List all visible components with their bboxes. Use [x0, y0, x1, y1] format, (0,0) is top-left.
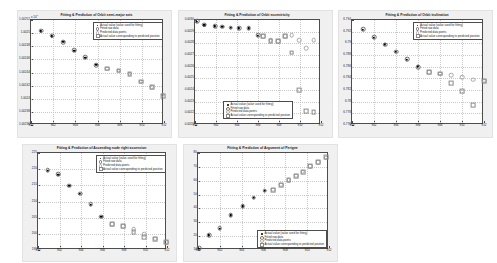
- legend-label: Actual value corresponding to predicted …: [420, 35, 480, 38]
- legend-label: Actual value corresponding to predicted …: [265, 243, 325, 246]
- data-point: [237, 26, 242, 31]
- chart-title-4: Fitting & Prediction of Ascending node r…: [38, 146, 165, 151]
- plot-area-2: Fitting & Prediction of Orbit eccentrici…: [194, 19, 320, 124]
- x-tick-label: 904: [239, 249, 244, 252]
- data-point: [311, 110, 316, 115]
- x-tick-mark: [167, 246, 168, 248]
- data-point: [471, 103, 476, 108]
- data-point: [297, 38, 302, 43]
- data-point: [311, 38, 316, 43]
- chart-legend-3[interactable]: Actual value (value used for fitting)Fit…: [413, 22, 483, 40]
- x-tick-label: 904: [78, 249, 83, 252]
- legend-row: Actual value corresponding to predicted …: [98, 167, 163, 171]
- data-point: [304, 46, 309, 51]
- legend-marker-actpred: [260, 243, 264, 247]
- data-point: [279, 182, 284, 187]
- x-tick-label: 908: [117, 124, 122, 127]
- gridline-vertical: [81, 153, 82, 248]
- legend-row: Actual value corresponding to predicted …: [95, 34, 160, 38]
- y-tick-label: 80: [193, 151, 196, 154]
- x-tick-label: 910: [139, 124, 144, 127]
- x-tick-label: 912: [161, 124, 166, 127]
- x-tick-mark: [164, 121, 165, 123]
- legend-marker-actual: [227, 104, 229, 106]
- y-tick-mark: [38, 153, 40, 154]
- chart-legend-5[interactable]: Actual value (value used for fitting)Fit…: [257, 230, 327, 248]
- legend-label: Actual value corresponding to predicted …: [100, 35, 160, 38]
- data-point: [394, 49, 399, 54]
- data-point: [88, 202, 93, 207]
- y-tick-label: 60: [193, 179, 196, 182]
- data-point: [460, 75, 465, 80]
- y-tick-label: 0.0024: [185, 88, 194, 91]
- data-point: [268, 38, 273, 43]
- legend-marker-actpred: [416, 34, 420, 38]
- data-point: [153, 237, 158, 242]
- x-tick-label: 906: [100, 249, 105, 252]
- chart-legend-2[interactable]: Actual value (value used for fitting)Fit…: [223, 101, 293, 119]
- data-point: [213, 24, 218, 29]
- data-point: [218, 226, 223, 231]
- x-tick-label: 906: [255, 124, 260, 127]
- data-point: [460, 88, 465, 93]
- x-tick-label: 908: [437, 124, 442, 127]
- x-tick-label: 908: [121, 249, 126, 252]
- y-tick-label: 0.0023: [185, 100, 194, 103]
- chart-title-5: Fitting & Prediction of Argument of Peri…: [198, 146, 327, 151]
- data-point: [304, 109, 309, 114]
- y-tick-label: 6.784: [343, 77, 351, 80]
- data-point: [131, 229, 136, 234]
- data-point: [99, 214, 104, 219]
- data-point: [45, 168, 50, 173]
- x-tick-label: 904: [234, 124, 239, 127]
- y-tick-label: 50: [193, 193, 196, 196]
- y-tick-label: 1.00238: [19, 110, 30, 113]
- y-tick-label: 0.0029: [185, 30, 194, 33]
- data-point: [308, 164, 313, 169]
- y-tick-label: 200: [32, 232, 37, 235]
- data-point: [83, 55, 88, 60]
- data-point: [149, 85, 154, 90]
- y-tick-label: 6.778: [343, 112, 351, 115]
- x-tick-mark: [195, 121, 196, 123]
- y-tick-label: 225: [32, 151, 37, 154]
- data-point: [383, 43, 388, 48]
- data-point: [316, 160, 321, 165]
- data-point: [471, 77, 476, 82]
- data-point: [207, 233, 212, 238]
- y-tick-mark: [352, 20, 354, 21]
- legend-row: Actual value corresponding to predicted …: [260, 243, 325, 247]
- axis-exponent-1: x 107: [31, 14, 38, 19]
- y-tick-label: 6.794: [343, 18, 351, 21]
- x-tick-label: 910: [305, 249, 310, 252]
- data-point: [197, 246, 202, 251]
- y-tick-label: 20: [193, 234, 196, 237]
- data-point: [323, 155, 328, 160]
- x-tick-label: 910: [297, 124, 302, 127]
- y-tick-label: 0.0028: [185, 42, 194, 45]
- x-tick-mark: [329, 246, 330, 248]
- data-point: [361, 27, 366, 32]
- y-tick-label: 210: [32, 200, 37, 203]
- y-tick-label: 6.788: [343, 53, 351, 56]
- legend-label: Actual value corresponding to predicted …: [103, 168, 163, 171]
- x-tick-label: 902: [57, 249, 62, 252]
- chart-legend-1[interactable]: Actual value (value used for fitting)Fit…: [93, 22, 163, 40]
- data-point: [228, 25, 233, 30]
- y-tick-label: 1.00246: [19, 58, 30, 61]
- legend-row: Actual value corresponding to predicted …: [415, 34, 480, 38]
- data-point: [160, 94, 165, 99]
- gridline-vertical: [60, 153, 61, 248]
- data-point: [78, 191, 83, 196]
- x-tick-mark: [484, 121, 485, 123]
- data-point: [56, 172, 61, 177]
- plot-area-3: Fitting & Prediction of Orbit inclinatio…: [351, 19, 483, 124]
- x-tick-label: 908: [283, 249, 288, 252]
- y-tick-label: 6.792: [343, 30, 351, 33]
- legend-marker-actpred: [226, 114, 230, 118]
- data-point: [202, 23, 207, 28]
- gridline-vertical: [242, 153, 243, 248]
- chart-legend-4[interactable]: Actual value (value used for fitting)Fit…: [96, 155, 166, 173]
- y-tick-label: 1.00244: [19, 71, 30, 74]
- data-point: [110, 222, 115, 227]
